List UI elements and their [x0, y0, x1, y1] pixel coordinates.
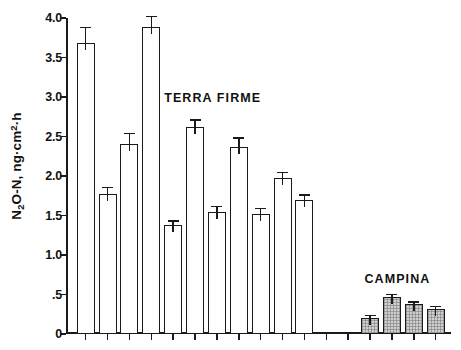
y-axis-tick-mark — [60, 57, 66, 59]
y-axis-label-dot-1: · — [9, 150, 24, 155]
x-axis-tick-mark — [391, 334, 393, 340]
x-axis-tick-mark — [347, 334, 349, 340]
y-axis-tick-label: 1.0 — [30, 248, 62, 262]
error-bar — [151, 16, 152, 35]
error-bar-cap — [211, 206, 222, 207]
error-bar-cap — [146, 16, 157, 17]
bar — [208, 212, 226, 334]
x-axis-tick-mark — [151, 334, 153, 340]
y-axis-tick-label: 4.0 — [30, 11, 62, 25]
error-bar — [304, 194, 305, 207]
y-axis-label: N2O-N, ng·cm2·h — [8, 112, 26, 219]
bar — [99, 194, 117, 334]
y-axis-label-suffix: h — [9, 112, 24, 120]
error-bar — [216, 206, 217, 219]
error-bar-cap — [102, 187, 113, 188]
error-bar — [238, 137, 239, 153]
y-axis-tick-mark — [60, 294, 66, 296]
x-axis-tick-mark — [194, 334, 196, 340]
error-bar-cap — [255, 208, 266, 209]
x-axis-tick-mark — [413, 334, 415, 340]
x-axis-tick-mark — [129, 334, 131, 340]
y-axis-tick-label: .5 — [30, 288, 62, 302]
y-axis-label-middle: O-N, ng — [9, 155, 24, 204]
error-bar — [282, 172, 283, 185]
error-bar — [391, 294, 392, 304]
x-axis-tick-mark — [260, 334, 262, 340]
y-axis-tick-label: 2.0 — [30, 169, 62, 183]
error-bar-cap — [408, 301, 419, 302]
error-bar — [85, 27, 86, 51]
x-axis-tick-mark — [282, 334, 284, 340]
error-bar — [435, 306, 436, 316]
y-axis-line — [66, 18, 68, 334]
bar — [164, 225, 182, 334]
error-bar-cap — [430, 306, 441, 307]
y-axis-label-cm: cm — [9, 131, 24, 151]
bar — [120, 144, 138, 334]
y-axis-label-dot-2: · — [9, 121, 24, 126]
error-bar — [172, 220, 173, 232]
y-axis-tick-label: 0 — [30, 327, 62, 341]
y-axis-tick-mark — [60, 96, 66, 98]
y-axis-tick-label: 1.5 — [30, 209, 62, 223]
y-axis-label-prefix: N — [9, 210, 24, 220]
x-axis-tick-mark — [172, 334, 174, 340]
error-bar-cap — [168, 220, 179, 221]
bar — [186, 127, 204, 334]
error-bar-cap — [124, 133, 135, 134]
error-bar — [413, 301, 414, 311]
error-bar-cap — [233, 137, 244, 138]
error-bar-cap — [190, 119, 201, 120]
y-axis-tick-mark — [60, 215, 66, 217]
x-axis-tick-mark — [85, 334, 87, 340]
n2o-n-bar-chart: N2O-N, ng·cm2·h 0.51.01.52.02.53.03.54.0… — [0, 0, 461, 350]
group-label-terra-firme: TERRA FIRME — [164, 91, 261, 105]
y-axis-tick-label: 2.5 — [30, 130, 62, 144]
bar — [252, 214, 270, 334]
y-axis-tick-mark — [60, 254, 66, 256]
x-axis-tick-mark — [326, 334, 328, 340]
x-axis-tick-mark — [107, 334, 109, 340]
x-axis-tick-mark — [369, 334, 371, 340]
y-axis-tick-label-group: 0.51.01.52.02.53.03.54.0 — [30, 0, 62, 350]
bar — [230, 147, 248, 334]
bar — [274, 178, 292, 334]
y-axis-tick-mark — [60, 136, 66, 138]
group-label-campina: CAMPINA — [364, 272, 430, 286]
y-axis-tick-mark — [60, 17, 66, 19]
error-bar-cap — [386, 294, 397, 295]
bar — [142, 27, 160, 334]
y-axis-tick-mark — [60, 175, 66, 177]
y-axis-tick-label: 3.0 — [30, 90, 62, 104]
error-bar — [194, 119, 195, 134]
error-bar-cap — [365, 315, 376, 316]
plot-area: TERRA FIRMECAMPINA — [66, 18, 451, 334]
y-axis-label-superscript: 2 — [8, 125, 19, 130]
error-bar — [129, 133, 130, 152]
y-axis-tick-label: 3.5 — [30, 51, 62, 65]
bar — [295, 200, 313, 334]
error-bar — [107, 187, 108, 201]
error-bar-cap — [80, 27, 91, 28]
error-bar-cap — [299, 194, 310, 195]
error-bar-cap — [277, 172, 288, 173]
bar — [77, 43, 95, 334]
x-axis-tick-mark — [435, 334, 437, 340]
y-axis-label-container: N2O-N, ng·cm2·h — [0, 0, 34, 350]
y-axis-label-subscript: 2 — [15, 204, 26, 209]
y-axis-tick-mark — [60, 333, 66, 335]
x-axis-tick-mark — [304, 334, 306, 340]
x-axis-tick-mark — [216, 334, 218, 340]
error-bar — [369, 315, 370, 326]
error-bar — [260, 208, 261, 221]
x-axis-tick-mark — [238, 334, 240, 340]
